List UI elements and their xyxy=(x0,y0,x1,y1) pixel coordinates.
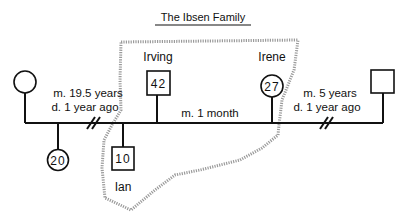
name-label: Ian xyxy=(115,180,132,194)
person-right-male xyxy=(371,70,394,123)
name-label: Irving xyxy=(143,50,172,64)
person-left-female xyxy=(14,71,36,123)
person-ian: 10 Ian xyxy=(112,123,134,194)
relationship-center-married: m. 1 month xyxy=(181,107,239,119)
relationship-right-married: m. 5 years xyxy=(303,87,357,99)
person-irving: Irving 42 xyxy=(143,50,172,123)
title-text: The Ibsen Family xyxy=(161,11,246,23)
male-symbol xyxy=(371,70,394,93)
female-symbol xyxy=(14,71,36,93)
name-label: Irene xyxy=(258,50,286,64)
relationship-left-married: m. 19.5 years xyxy=(53,87,123,99)
age-label: 10 xyxy=(115,152,130,166)
relationship-left-divorced: d. 1 year ago xyxy=(51,101,118,113)
age-label: 42 xyxy=(151,77,166,91)
genogram-diagram: The Ibsen Family m. 19.5 years d. 1 year… xyxy=(0,0,405,220)
person-irene: Irene 27 xyxy=(258,50,286,123)
person-daughter: 20 xyxy=(48,123,69,171)
age-label: 20 xyxy=(50,154,65,168)
age-label: 27 xyxy=(264,80,279,94)
relationship-right-divorced: d. 1 year ago xyxy=(293,101,360,113)
household-boundary xyxy=(102,40,298,210)
diagram-title: The Ibsen Family xyxy=(155,11,251,25)
